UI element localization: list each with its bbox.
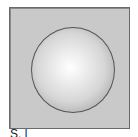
- figure-frame: [9, 7, 130, 129]
- figure-caption: S. l: [10, 128, 27, 137]
- shaded-sphere: [31, 27, 115, 113]
